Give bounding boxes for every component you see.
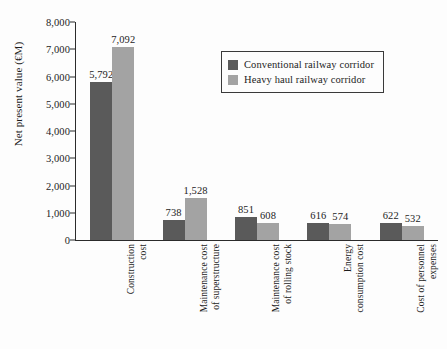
bar-value-label: 608 <box>260 210 276 221</box>
bar[interactable]: 1,528 <box>185 198 207 240</box>
bar-value-label: 574 <box>332 211 348 222</box>
category-label-line: expenses <box>427 244 439 344</box>
category-label-line: Energy <box>343 244 355 344</box>
y-axis: 01,0002,0003,0004,0005,0006,0007,0008,00… <box>0 0 78 349</box>
bar-column[interactable]: 532 <box>402 22 424 240</box>
bar-column[interactable]: 738 <box>163 22 185 240</box>
bar[interactable]: 616 <box>307 223 329 240</box>
bar[interactable]: 532 <box>402 226 424 240</box>
chart-legend: Conventional railway corridorHeavy haul … <box>221 51 384 93</box>
y-axis-tick-label: 7,000 <box>46 44 70 55</box>
y-axis-tick-label: 5,000 <box>46 98 70 109</box>
bar[interactable]: 608 <box>257 223 279 240</box>
bar-value-label: 622 <box>383 210 399 221</box>
category-label-line: Cost of personnel <box>416 244 428 344</box>
category-label-line: of superstructure <box>210 244 222 344</box>
legend-item[interactable]: Heavy haul railway corridor <box>228 72 374 87</box>
bar[interactable]: 851 <box>235 217 257 240</box>
bar-value-label: 616 <box>310 210 326 221</box>
y-axis-tick-label: 8,000 <box>46 17 70 28</box>
legend-item[interactable]: Conventional railway corridor <box>228 57 374 72</box>
y-axis-tick-label: 3,000 <box>46 153 70 164</box>
bar-value-label: 1,528 <box>184 185 208 196</box>
y-axis-tick-label: 4,000 <box>46 126 70 137</box>
bar-column[interactable]: 5,792 <box>90 22 112 240</box>
bar[interactable]: 574 <box>329 224 351 240</box>
bar-column[interactable]: 7,092 <box>112 22 134 240</box>
bar[interactable]: 5,792 <box>90 82 112 240</box>
bar-group: 622532 <box>380 22 424 240</box>
category-label-line: Maintenance cost <box>271 244 283 344</box>
bar-value-label: 5,792 <box>89 69 113 80</box>
bar-value-label: 532 <box>405 213 421 224</box>
bar-group: 7381,528 <box>163 22 207 240</box>
x-axis-line <box>75 240 438 241</box>
category-label-line: of rolling stock <box>283 244 295 344</box>
bar-value-label: 7,092 <box>111 34 135 45</box>
bar-group: 5,7927,092 <box>90 22 134 240</box>
y-axis-tick-label: 6,000 <box>46 71 70 82</box>
category-label-line: Maintenance cost <box>199 244 211 344</box>
category-label-line: cost <box>138 244 150 344</box>
bar[interactable]: 622 <box>380 223 402 240</box>
x-axis-category-label: Energyconsumption cost <box>343 244 371 344</box>
bar-chart: Net present value (€M) 01,0002,0003,0004… <box>0 0 447 349</box>
bar[interactable]: 738 <box>163 220 185 240</box>
legend-swatch-icon <box>228 75 238 85</box>
x-axis-category-label: Maintenance costof rolling stock <box>271 244 299 344</box>
x-axis-category-label: Cost of personnelexpenses <box>416 244 444 344</box>
category-label-line: Construction <box>126 244 138 344</box>
legend-label: Heavy haul railway corridor <box>244 74 365 85</box>
legend-swatch-icon <box>228 60 238 70</box>
bar-value-label: 738 <box>166 207 182 218</box>
x-axis-category-label: Maintenance costof superstructure <box>199 244 227 344</box>
y-axis-tick-label: 1,000 <box>46 207 70 218</box>
x-axis-category-labels: ConstructioncostMaintenance costof super… <box>76 244 438 349</box>
legend-label: Conventional railway corridor <box>244 59 374 70</box>
bar-value-label: 851 <box>238 204 254 215</box>
bar[interactable]: 7,092 <box>112 47 134 240</box>
category-label-line: consumption cost <box>355 244 367 344</box>
bar-column[interactable]: 1,528 <box>185 22 207 240</box>
y-axis-tick-label: 2,000 <box>46 180 70 191</box>
x-axis-category-label: Constructioncost <box>126 244 154 344</box>
